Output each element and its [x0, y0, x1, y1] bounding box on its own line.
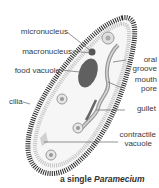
label-food-vacuole: food vacuole [2, 67, 60, 75]
label-groove: groove [120, 65, 157, 73]
label-pore: pore [120, 85, 157, 93]
label-oral: oral [126, 56, 157, 64]
caption-prefix: a single [60, 174, 94, 184]
label-macronucleus: macronucleus [4, 48, 72, 56]
label-vacuole: vacuole [100, 140, 152, 148]
label-gullet: gullet [120, 105, 156, 113]
label-contractile: contractile [100, 131, 156, 139]
label-cilia: cilia [9, 98, 23, 106]
caption-organism: Paramecium [94, 174, 145, 184]
label-mouth: mouth [120, 76, 157, 84]
caption: a single Paramecium [60, 174, 145, 184]
label-micronucleus: micronucleus [4, 28, 68, 36]
